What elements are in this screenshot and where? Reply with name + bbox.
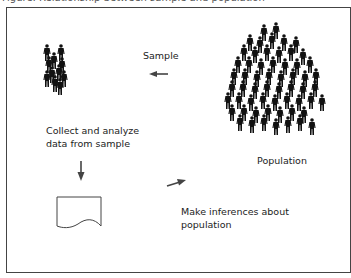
make-inferences-label: Make inferences about population — [181, 205, 289, 231]
sample-label: Sample — [143, 49, 179, 62]
arrow-left-icon — [149, 70, 169, 78]
caption-text: Figure: Relationship between sample and … — [2, 0, 265, 3]
arrow-down-icon — [76, 161, 86, 181]
population-label: Population — [257, 154, 307, 167]
large-crowd-icon — [222, 24, 332, 136]
arrow-up-right-icon — [166, 178, 186, 188]
small-crowd-icon — [40, 44, 80, 104]
document-icon — [56, 196, 102, 230]
collect-analyze-label: Collect and analyze data from sample — [46, 124, 139, 150]
figure-caption: Figure: Relationship between sample and … — [0, 0, 343, 5]
